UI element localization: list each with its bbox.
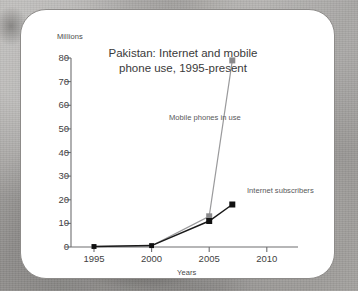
y-tick-label-30: 30 xyxy=(45,171,69,181)
x-axis-title: Years xyxy=(177,268,196,277)
y-axis-title: Millions xyxy=(57,32,83,41)
series-annotation-mobile-phones: Mobile phones in use xyxy=(169,113,241,122)
x-axis-ticks xyxy=(94,247,267,252)
chart-card: Millions Pakistan: Internet and mobile p… xyxy=(20,9,335,279)
page-background: Millions Pakistan: Internet and mobile p… xyxy=(0,0,358,291)
y-tick-label-80: 80 xyxy=(45,53,69,63)
y-tick-label-40: 40 xyxy=(45,148,69,158)
x-tick-label-2005: 2005 xyxy=(189,254,229,264)
series-markers-mobile-phones xyxy=(92,57,236,249)
y-tick-label-10: 10 xyxy=(45,218,69,228)
chart-title-line-1: Pakistan: Internet and mobile xyxy=(83,46,283,61)
chart-plot-area: Millions Pakistan: Internet and mobile p… xyxy=(21,10,334,278)
series-annotation-internet-subscribers: Internet subscribers xyxy=(247,186,314,195)
y-tick-label-50: 50 xyxy=(45,124,69,134)
chart-title-line-2: phone use, 1995-present xyxy=(83,61,283,76)
y-tick-label-20: 20 xyxy=(45,195,69,205)
x-tick-label-2000: 2000 xyxy=(132,254,172,264)
x-tick-label-2010: 2010 xyxy=(247,254,287,264)
y-tick-label-60: 60 xyxy=(45,100,69,110)
y-tick-label-70: 70 xyxy=(45,77,69,87)
series-markers-internet-subscribers xyxy=(92,202,236,249)
y-tick-label-0: 0 xyxy=(45,242,69,252)
x-tick-label-1995: 1995 xyxy=(74,254,114,264)
chart-title: Pakistan: Internet and mobile phone use,… xyxy=(83,46,283,76)
series-line-internet-subscribers xyxy=(94,205,232,247)
